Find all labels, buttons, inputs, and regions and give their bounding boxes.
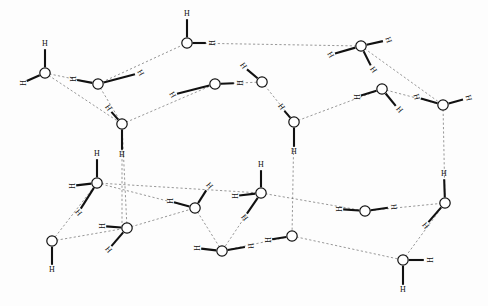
hydrogen-o4-left: H	[167, 90, 178, 100]
covalent-bond-layer	[27, 19, 463, 285]
hbond-o17-o13	[127, 208, 195, 228]
hydrogen-o14-lower: H	[420, 220, 431, 230]
hydrogen-o2-right-bond	[104, 74, 135, 82]
hydrogen-o6-right: H	[383, 36, 394, 45]
oxygen-upper-left	[40, 68, 50, 78]
hydrogen-o11-left: H	[67, 183, 76, 189]
oxygen-mid-top-right	[257, 77, 267, 87]
hydrogen-o17-left-bond	[106, 226, 121, 227]
hydrogen-o15-left-bond	[343, 209, 359, 210]
hydrogen-o20-right: H	[425, 257, 434, 263]
hydrogen-o18-left: H	[192, 245, 201, 251]
hydrogen-o17-left: H	[97, 223, 106, 229]
hydrogen-o11-lower-bond	[81, 188, 94, 209]
hydrogen-o9-lower: H	[119, 150, 125, 159]
oxygen-bottom-center-left	[217, 246, 227, 256]
oxygen-far-right-upper	[438, 100, 448, 110]
oxygen-upper-left-inner	[93, 79, 103, 89]
hydrogen-o14-lower-bond	[428, 207, 441, 222]
oxygen-top-right	[356, 41, 366, 51]
hydrogen-o16-lower: H	[49, 265, 55, 274]
oxygen-lower-right-inner	[360, 206, 370, 216]
hydrogen-o7-lower: H	[394, 104, 405, 114]
hydrogen-o6-left-bond	[335, 48, 355, 54]
hydrogen-o13-left-bond	[174, 202, 189, 206]
hydrogen-o19-left-bond	[272, 237, 286, 239]
oxygen-atom-layer	[40, 38, 450, 265]
hydrogen-o4-o5-bond	[221, 83, 234, 84]
oxygen-bottom-left-inner	[122, 223, 132, 233]
hydrogen-o8-right: H	[464, 94, 474, 102]
hydrogen-o6-lower: H	[368, 65, 379, 75]
hydrogen-o8-right-bond	[449, 99, 463, 103]
hydrogen-o11-upper: H	[94, 149, 100, 158]
oxygen-center-left-upper	[117, 119, 127, 129]
oxygen-bottom-right	[398, 255, 408, 265]
oxygen-center-middle	[256, 188, 266, 198]
hydrogen-o18-left-bond	[201, 249, 216, 251]
hydrogen-o15-left: H	[334, 206, 343, 212]
hydrogen-o7-left: H	[352, 94, 361, 100]
hydrogen-o3-lower-bond	[247, 69, 258, 78]
hydrogen-o3-top: H	[184, 9, 190, 18]
hydrogen-o7-lower-bond	[386, 94, 396, 106]
oxygen-bottom-left	[47, 236, 57, 246]
hydrogen-o6-right-bond	[367, 41, 383, 45]
hydrogen-o19-left: H	[263, 237, 272, 243]
oxygen-top-center	[182, 38, 192, 48]
hbond-o16-o17	[52, 228, 127, 241]
hydrogen-o15-right-bond	[371, 208, 388, 210]
hydrogen-o14-upper: H	[441, 169, 447, 178]
hydrogen-o1-left-bond	[27, 75, 40, 81]
hbond-o9-o4	[122, 84, 215, 124]
hydrogen-o11-left-bond	[76, 184, 91, 186]
hydrogen-o13-left: H	[165, 198, 174, 204]
hydrogen-o13-upper: H	[204, 180, 215, 190]
hydrogen-o2-left: H	[68, 76, 77, 82]
hydrogen-o18-right-bond	[228, 247, 245, 250]
hydrogen-o14-upper-bond	[444, 179, 445, 197]
hydrogen-o2-right: H	[135, 68, 146, 78]
hydrogen-o5-lower-bond	[284, 111, 290, 118]
hydrogen-o2-left-bond	[77, 80, 92, 83]
hydrogen-o12-lower: H	[239, 212, 250, 222]
oxygen-left-middle	[92, 178, 102, 188]
oxygen-right-upper	[377, 84, 387, 94]
hydrogen-o12-lower-bond	[247, 198, 258, 214]
hydrogen-o12-left-bond	[239, 194, 255, 196]
hydrogen-o17-lower-bond	[111, 232, 123, 246]
hydrogen-o12-left: H	[230, 193, 239, 199]
hydrogen-o8-left-bond	[421, 98, 437, 103]
oxygen-right-middle	[440, 198, 450, 208]
hydrogen-o1-top: H	[42, 39, 48, 48]
oxygen-bottom-center-right	[287, 231, 297, 241]
hydrogen-o5-lower: H	[276, 102, 287, 112]
oxygen-inner-lower-left	[190, 203, 200, 213]
oxygen-mid-top-left	[210, 79, 220, 89]
hydrogen-atom-layer: HHHHHHHHHHHHHHHHHHHHHHHHHHHHHHHHHHHHHHHH	[18, 9, 474, 294]
hydrogen-o18-right: H	[246, 243, 256, 250]
hbond-o11-o12	[97, 183, 261, 193]
hydrogen-o17-lower: H	[103, 244, 114, 254]
hydrogen-o20-lower: H	[400, 285, 406, 294]
hydrogen-o6-left: H	[325, 50, 336, 60]
lattice-svg: HHHHHHHHHHHHHHHHHHHHHHHHHHHHHHHHHHHHHHHH	[0, 0, 488, 306]
hbond-o19-o20	[292, 236, 403, 260]
hbond-o6-o8	[361, 46, 443, 105]
hydrogen-o11-lower: H	[73, 207, 84, 217]
molecular-diagram-canvas: HHHHHHHHHHHHHHHHHHHHHHHHHHHHHHHHHHHHHHHH…	[0, 0, 488, 306]
hydrogen-o9-upper: H	[103, 103, 114, 113]
oxygen-center-right-upper	[289, 117, 299, 127]
hydrogen-o4-left-bond	[177, 85, 209, 93]
hydrogen-o13-upper-bond	[198, 190, 206, 203]
hbond-o12-o15	[261, 193, 365, 211]
hydrogen-o6-lower-bond	[364, 51, 371, 65]
hydrogen-o12-upper: H	[258, 160, 264, 169]
hydrogen-o1-left: H	[18, 80, 27, 86]
hydrogen-o15-right: H	[389, 204, 399, 211]
hydrogen-o10-lower: H	[291, 147, 297, 156]
hydrogen-o8-left: H	[412, 93, 422, 101]
hydrogen-o4-o5: H	[235, 80, 244, 86]
hbond-o2-o3	[98, 43, 187, 84]
hydrogen-o7-left-bond	[361, 91, 376, 96]
